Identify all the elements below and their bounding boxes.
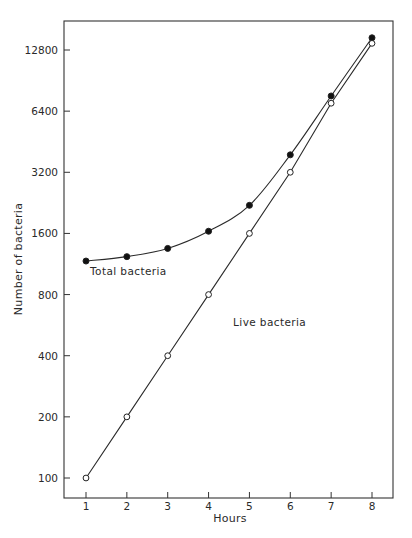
live-bacteria-point xyxy=(206,292,212,298)
live-bacteria-point xyxy=(328,100,334,106)
total-bacteria-point xyxy=(369,35,375,41)
plot-frame xyxy=(64,21,393,498)
y-tick-label: 6400 xyxy=(31,105,58,117)
live-bacteria-point xyxy=(83,475,89,481)
x-tick-label: 3 xyxy=(164,500,171,512)
series-layer: Total bacteriaLive bacteria xyxy=(83,35,375,481)
total-bacteria-point xyxy=(206,228,212,234)
total-bacteria-point xyxy=(246,202,252,208)
x-tick-label: 2 xyxy=(124,500,131,512)
y-axis-title: Number of bacteria xyxy=(12,203,25,315)
x-axis: 12345678 xyxy=(83,492,376,512)
y-tick-label: 1600 xyxy=(31,227,58,239)
series-label-0: Total bacteria xyxy=(89,265,167,277)
bacteria-growth-chart: 10020040080016003200640012800 12345678 N… xyxy=(0,0,412,538)
total-bacteria-point xyxy=(165,245,171,251)
live-bacteria-point xyxy=(369,40,375,46)
live-bacteria-point xyxy=(165,353,171,359)
x-tick-label: 6 xyxy=(287,500,294,512)
total-bacteria-point xyxy=(124,254,130,260)
x-tick-label: 1 xyxy=(83,500,90,512)
x-tick-label: 7 xyxy=(328,500,335,512)
x-tick-label: 5 xyxy=(246,500,253,512)
live-bacteria-point xyxy=(247,231,253,237)
y-tick-label: 100 xyxy=(38,472,58,484)
y-axis: 10020040080016003200640012800 xyxy=(25,44,70,484)
series-line-0 xyxy=(86,38,372,261)
y-tick-label: 3200 xyxy=(31,166,58,178)
live-bacteria-point xyxy=(124,414,130,420)
series-line-1 xyxy=(86,43,372,478)
total-bacteria-point xyxy=(328,93,334,99)
y-tick-label: 200 xyxy=(38,411,58,423)
x-tick-label: 8 xyxy=(369,500,376,512)
y-tick-label: 800 xyxy=(38,289,58,301)
x-axis-title: Hours xyxy=(213,512,247,525)
x-tick-label: 4 xyxy=(205,500,212,512)
y-tick-label: 400 xyxy=(38,350,58,362)
total-bacteria-point xyxy=(83,258,89,264)
series-label-1: Live bacteria xyxy=(233,316,306,328)
live-bacteria-point xyxy=(287,169,293,175)
y-tick-label: 12800 xyxy=(25,44,58,56)
total-bacteria-point xyxy=(287,152,293,158)
